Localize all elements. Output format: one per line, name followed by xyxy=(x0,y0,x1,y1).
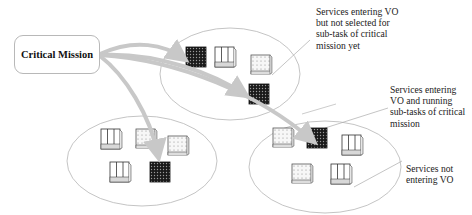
pointer-line-not-selected xyxy=(272,40,310,75)
critical-mission-node: Critical Mission xyxy=(14,35,100,74)
service-light-icon xyxy=(273,128,294,147)
critical-mission-label: Critical Mission xyxy=(21,49,93,60)
label-services-running: Services entering VO and running sub-tas… xyxy=(390,84,470,129)
pointer-line-vo-top-edge xyxy=(302,104,336,114)
vo-ellipse-top xyxy=(160,28,300,120)
service-light-icon xyxy=(168,136,189,155)
pointer-line-not-entering xyxy=(354,161,402,187)
service-stripe-icon xyxy=(101,129,122,149)
service-stripe-icon xyxy=(110,162,131,182)
service-light-icon xyxy=(251,55,272,74)
diagram-canvas: Critical Mission Services entering VO bu… xyxy=(0,0,472,215)
service-light-icon xyxy=(292,164,313,183)
label-services-not-selected: Services entering VO but not selected fo… xyxy=(316,6,406,51)
service-dark-icon xyxy=(186,47,206,67)
service-stripe-icon xyxy=(331,164,352,184)
service-stripe-icon xyxy=(342,135,363,155)
service-dark-icon xyxy=(150,162,170,182)
service-stripe-icon xyxy=(215,47,236,67)
label-services-not-entering: Services not entering VO xyxy=(406,163,472,185)
